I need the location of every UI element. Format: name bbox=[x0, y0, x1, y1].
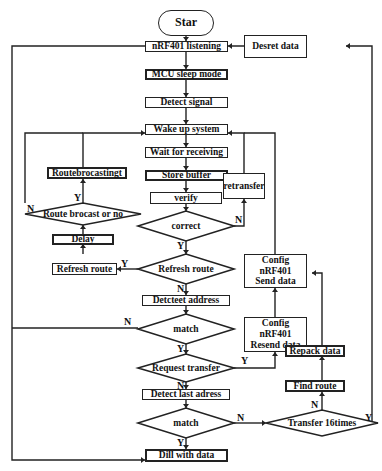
process-retransfer: retransfer bbox=[223, 173, 265, 199]
process-find-route: Find route bbox=[285, 380, 345, 392]
edge-label-match-last-n: N bbox=[237, 412, 244, 423]
process-desret-data: Desret data bbox=[244, 35, 307, 58]
process-deal-with-data: Dill with data bbox=[145, 449, 228, 462]
decision-match-last-text: match bbox=[150, 417, 222, 429]
start-terminator: Star bbox=[158, 10, 214, 36]
edge-label-refresh-route-n: N bbox=[177, 283, 184, 294]
edge-label-correct-y: Y bbox=[177, 240, 184, 251]
process-wake-up-system: Wake up system bbox=[145, 124, 228, 135]
process-detect-address: Detcteet address bbox=[142, 295, 230, 306]
decision-route-broadcast-text: Route brocast or no bbox=[35, 208, 131, 220]
edge-label-match-address-y: Y bbox=[177, 343, 184, 354]
config-send-line2: Send data bbox=[255, 276, 295, 287]
decision-match-address-text: match bbox=[150, 323, 222, 335]
process-nrf401-listening: nRF401 listening bbox=[145, 41, 228, 52]
edge-label-correct-n: N bbox=[235, 214, 242, 225]
process-wait-for-receiving: Wait for receiving bbox=[145, 147, 228, 158]
edge-label-request-transfer-n: N bbox=[177, 380, 184, 391]
process-repack-data: Repack data bbox=[285, 345, 345, 357]
config-send-line1: Config nRF401 bbox=[245, 255, 306, 277]
edge-label-request-transfer-y: Y bbox=[241, 355, 248, 366]
edge-label-match-address-n: N bbox=[124, 316, 131, 327]
process-delay: Delay bbox=[52, 234, 114, 245]
edge-label-match-last-y: Y bbox=[177, 437, 184, 448]
config-resend-line1: Config nRF401 bbox=[245, 318, 306, 340]
process-store-buffer: Store buffer bbox=[145, 170, 228, 181]
decision-refresh-route-text: Refresh route bbox=[150, 263, 222, 275]
process-detect-signal: Detect signal bbox=[145, 97, 228, 108]
edge-label-route-broadcast-y: Y bbox=[74, 192, 81, 203]
decision-request-transfer-text: Request transfer bbox=[145, 362, 227, 374]
process-config-send-data: Config nRF401 Send data bbox=[244, 254, 307, 288]
decision-correct-text: correct bbox=[150, 220, 222, 232]
process-verify: verify bbox=[150, 192, 222, 204]
process-mcu-sleep-mode: MCU sleep mode bbox=[145, 69, 228, 80]
process-route-broadcasting: Routebrocastingt bbox=[47, 167, 127, 179]
edge-label-refresh-route-y: Y bbox=[121, 258, 128, 269]
edge-label-route-broadcast-n: N bbox=[27, 203, 34, 214]
edge-label-transfer-16-y: Y bbox=[365, 412, 372, 423]
decision-transfer-16-times-text: Transfer 16times bbox=[280, 417, 364, 429]
process-refresh-route: Refresh route bbox=[52, 263, 117, 275]
process-detect-last-address: Detect last adress bbox=[142, 389, 230, 400]
edge-label-transfer-16-n: N bbox=[311, 399, 318, 410]
